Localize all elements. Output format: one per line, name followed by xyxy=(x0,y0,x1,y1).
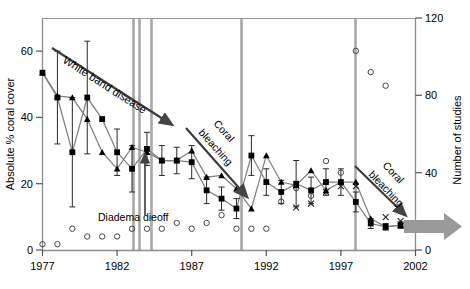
right-axis: 0 40 80 120 Number of studies xyxy=(416,12,464,256)
square-marker xyxy=(234,206,240,212)
left-tick-label-40: 40 xyxy=(21,111,33,123)
square-marker xyxy=(293,181,299,187)
square-marker xyxy=(308,187,314,193)
square-marker xyxy=(248,153,254,159)
right-tick-label-120: 120 xyxy=(425,12,443,24)
x-tick-label-1977: 1977 xyxy=(30,260,54,272)
square-marker xyxy=(338,179,344,185)
coral-cover-chart-figure: 0 20 40 60 Absolute % coral cover 0 40 8… xyxy=(0,0,470,289)
square-marker xyxy=(114,149,120,155)
square-marker xyxy=(219,196,225,202)
square-marker xyxy=(129,166,135,172)
x-tick-label-1987: 1987 xyxy=(179,260,203,272)
square-marker xyxy=(353,199,359,205)
chart-canvas: 0 20 40 60 Absolute % coral cover 0 40 8… xyxy=(0,0,470,289)
right-tick-label-0: 0 xyxy=(425,244,431,256)
x-tick-label-1997: 1997 xyxy=(329,260,353,272)
y-axis-label-right: Number of studies xyxy=(451,95,463,185)
right-tick-label-80: 80 xyxy=(425,89,437,101)
x-tick-label-1982: 1982 xyxy=(105,260,129,272)
square-marker xyxy=(278,189,284,195)
right-tick-label-40: 40 xyxy=(425,167,437,179)
left-tick-label-0: 0 xyxy=(27,244,33,256)
x-tick-label-2002: 2002 xyxy=(403,260,427,272)
square-marker xyxy=(189,159,195,165)
left-tick-label-20: 20 xyxy=(21,178,33,190)
diadema-dieoff-label: Diadema dieoff xyxy=(98,211,169,223)
left-axis: 0 20 40 60 Absolute % coral cover xyxy=(4,18,43,256)
square-marker xyxy=(84,95,90,101)
square-marker xyxy=(159,158,165,164)
y-axis-label-left: Absolute % coral cover xyxy=(4,77,16,190)
square-marker xyxy=(55,95,61,101)
x-axis: 1977 1982 1987 1992 1997 2002 xyxy=(30,250,427,272)
square-marker xyxy=(40,70,46,76)
square-marker xyxy=(398,222,404,228)
square-marker xyxy=(383,224,389,230)
square-marker xyxy=(144,146,150,152)
square-marker xyxy=(263,179,269,185)
square-marker xyxy=(204,187,210,193)
square-marker xyxy=(368,221,374,227)
square-marker xyxy=(69,149,75,155)
square-marker xyxy=(174,158,180,164)
left-tick-label-60: 60 xyxy=(21,45,33,57)
x-tick-label-1992: 1992 xyxy=(254,260,278,272)
square-marker xyxy=(99,116,105,122)
square-marker xyxy=(323,179,329,185)
